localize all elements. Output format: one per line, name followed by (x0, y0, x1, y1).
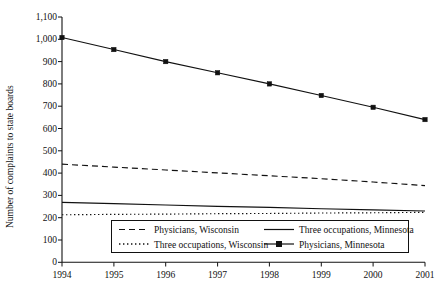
data-point-marker (371, 105, 375, 109)
chart-legend: Physicians, Wisconsin Three occupations,… (112, 221, 415, 253)
x-tick-label: 1996 (156, 270, 175, 280)
data-point-marker (164, 59, 168, 63)
y-tick-label: 800 (43, 79, 58, 89)
y-tick-label: 0 (52, 257, 57, 267)
y-tick-label: 900 (43, 57, 58, 67)
data-point-marker (319, 93, 323, 97)
y-axis-title: Number of complaints to state boards (5, 85, 15, 228)
x-tick-label: 1997 (208, 270, 227, 280)
series-layer (60, 35, 427, 214)
data-point-marker (60, 35, 64, 39)
x-tick-label: 1998 (260, 270, 279, 280)
legend-label-physicians-minnesota: Physicians, Minnesota (299, 240, 385, 250)
data-point-marker (112, 47, 116, 51)
data-point-marker (423, 117, 427, 121)
x-tick-label: 1995 (104, 270, 123, 280)
legend-marker-physicians-minnesota (276, 241, 282, 247)
y-tick-label: 600 (43, 124, 58, 134)
y-tick-label: 400 (43, 168, 58, 178)
legend-label-physicians-wisconsin: Physicians, Wisconsin (154, 225, 239, 235)
y-tick-label: 200 (43, 213, 58, 223)
x-tick-label: 1999 (312, 270, 331, 280)
data-point-marker (215, 71, 219, 75)
series-three-occupations-wisconsin (62, 212, 425, 214)
x-tick-label: 2001 (416, 270, 435, 280)
series-line (62, 202, 425, 211)
y-tick-label: 300 (43, 190, 58, 200)
y-tick-marks (58, 17, 62, 262)
legend-label-three-occupations-minnesota: Three occupations, Minnesota (299, 225, 415, 235)
x-tick-label: 2000 (364, 270, 383, 280)
data-point-marker (267, 82, 271, 86)
chart-figure: Number of complaints to state boards 1,1… (0, 0, 436, 301)
y-tick-label: 700 (43, 101, 58, 111)
y-tick-label: 500 (43, 146, 58, 156)
series-three-occupations-minnesota (62, 202, 425, 211)
y-tick-label: 1,000 (36, 34, 58, 44)
x-tick-label: 1994 (53, 270, 72, 280)
series-line (62, 212, 425, 214)
series-physicians-minnesota (60, 35, 427, 121)
series-line (62, 164, 425, 185)
series-physicians-wisconsin (62, 164, 425, 185)
series-line (62, 38, 425, 120)
x-tick-marks (62, 262, 425, 266)
y-tick-label: 1,100 (36, 12, 58, 22)
legend-label-three-occupations-wisconsin: Three occupations, Wisconsin (154, 240, 268, 250)
line-chart-svg: Number of complaints to state boards 1,1… (0, 0, 436, 301)
y-tick-label: 100 (43, 235, 58, 245)
